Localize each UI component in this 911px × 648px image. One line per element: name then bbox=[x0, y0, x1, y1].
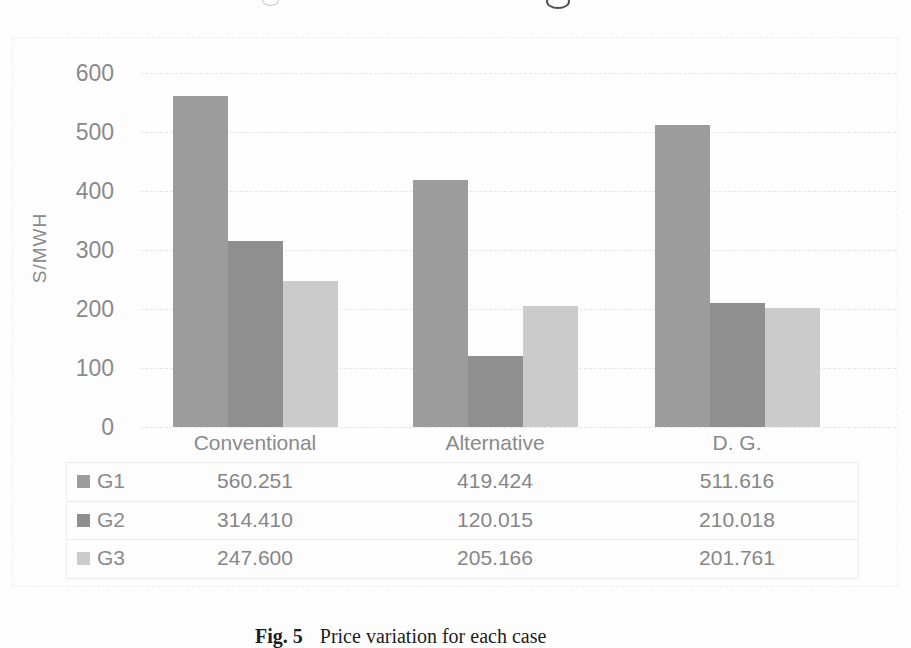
table-value-G2-1: 314.410 bbox=[165, 509, 345, 531]
category-label: Conventional bbox=[194, 431, 317, 455]
cutoff-text-fragment bbox=[546, 0, 570, 9]
table-right-border bbox=[858, 462, 859, 578]
bar-G1-conventional bbox=[173, 96, 228, 427]
table-value-G3-2: 205.166 bbox=[405, 547, 585, 569]
gridline-500 bbox=[140, 132, 896, 133]
y-tick-label: 200 bbox=[34, 298, 114, 320]
gridline-600 bbox=[140, 73, 896, 74]
category-label: Alternative bbox=[445, 431, 544, 455]
figure-caption: Fig. 5Price variation for each case bbox=[255, 625, 546, 648]
category-label: D. G. bbox=[712, 431, 761, 455]
table-value-G2-2: 120.015 bbox=[405, 509, 585, 531]
bar-G2-conventional bbox=[228, 241, 283, 427]
cutoff-text-fragment bbox=[262, 0, 279, 6]
table-value-G1-3: 511.616 bbox=[647, 470, 827, 492]
table-row-border bbox=[66, 539, 858, 540]
y-tick-label: 500 bbox=[34, 121, 114, 143]
bar-G3-dg bbox=[765, 308, 820, 427]
bar-G3-conventional bbox=[283, 281, 338, 427]
table-value-G3-1: 247.600 bbox=[165, 547, 345, 569]
table-left-border bbox=[66, 462, 67, 578]
y-tick-label: 300 bbox=[34, 239, 114, 261]
y-tick-label: 400 bbox=[34, 180, 114, 202]
series-label-G3: G3 bbox=[97, 547, 125, 569]
series-label-G2: G2 bbox=[97, 509, 125, 531]
bar-G1-dg bbox=[655, 125, 710, 427]
bar-G3-alternative bbox=[523, 306, 578, 427]
figure-caption-text: Price variation for each case bbox=[320, 625, 547, 647]
gridline-400 bbox=[140, 191, 896, 192]
bar-G2-alternative bbox=[468, 356, 523, 427]
bar-G1-alternative bbox=[413, 180, 468, 427]
y-tick-label: 0 bbox=[34, 416, 114, 438]
table-row-border bbox=[66, 578, 858, 579]
legend-key-G1 bbox=[77, 475, 90, 488]
bar-G2-dg bbox=[710, 303, 765, 427]
table-value-G1-2: 419.424 bbox=[405, 470, 585, 492]
table-value-G2-3: 210.018 bbox=[647, 509, 827, 531]
legend-key-G2 bbox=[77, 514, 90, 527]
figure-number: Fig. 5 bbox=[255, 625, 303, 647]
legend-key-G3 bbox=[77, 552, 90, 565]
table-value-G1-1: 560.251 bbox=[165, 470, 345, 492]
series-label-G1: G1 bbox=[97, 470, 125, 492]
table-row-border bbox=[66, 501, 858, 502]
y-tick-label: 600 bbox=[34, 62, 114, 84]
gridline-0 bbox=[140, 427, 896, 428]
table-row-border bbox=[66, 462, 858, 463]
table-value-G3-3: 201.761 bbox=[647, 547, 827, 569]
y-tick-label: 100 bbox=[34, 357, 114, 379]
